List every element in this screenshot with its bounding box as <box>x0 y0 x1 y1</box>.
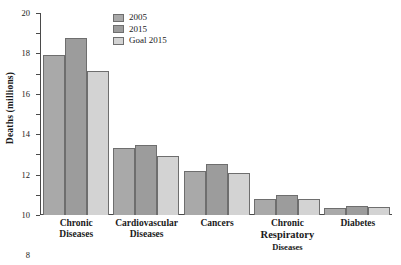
y-axis-tick-label: 16 <box>22 90 31 99</box>
legend-item[interactable]: 2005 <box>113 13 167 22</box>
y-axis-title: Deaths (millions) <box>2 0 18 215</box>
x-axis-category-label-line: Diseases <box>252 242 322 252</box>
legend-item-label: 2015 <box>129 25 147 34</box>
legend-item-label: Goal 2015 <box>129 36 167 45</box>
bar-group <box>41 13 111 215</box>
y-axis-tick-label: 18 <box>22 49 31 58</box>
y-axis-tick: 12 <box>36 94 40 95</box>
bar-group <box>181 13 251 215</box>
x-axis-category-label: ChronicDiseases <box>41 218 111 252</box>
legend-item[interactable]: Goal 2015 <box>113 36 167 45</box>
bar[interactable] <box>184 171 206 215</box>
bar[interactable] <box>298 199 320 215</box>
bar[interactable] <box>368 207 390 215</box>
x-axis-category-label-line: Diabetes <box>323 218 393 229</box>
x-axis-category-labels: ChronicDiseasesCardiovascularDiseasesCan… <box>41 218 393 252</box>
y-axis-tick: 6 <box>36 154 40 155</box>
bar[interactable] <box>206 164 228 215</box>
bar[interactable] <box>113 148 135 215</box>
bar-group <box>252 13 322 215</box>
bar[interactable] <box>254 199 276 215</box>
legend-item-label: 2005 <box>129 13 147 22</box>
legend-item[interactable]: 2015 <box>113 25 167 34</box>
x-axis-category-label-line: Chronic <box>252 218 322 229</box>
x-axis-category-label-line: Diseases <box>41 229 111 240</box>
x-axis-category-label: CardiovascularDiseases <box>111 218 181 252</box>
x-axis-category-label-line: Cardiovascular <box>111 218 181 229</box>
bar-group-bars <box>322 13 392 215</box>
y-axis-tick: 18 <box>36 33 40 34</box>
y-axis-tick: 0 <box>36 215 40 216</box>
bar[interactable] <box>43 55 65 215</box>
y-axis-tick: 14 <box>36 74 40 75</box>
bar-group-bars <box>181 13 251 215</box>
bar[interactable] <box>135 145 157 215</box>
legend-swatch-icon <box>113 37 124 45</box>
y-axis-tick-label: 8 <box>26 251 30 260</box>
bar-group-bars <box>252 13 322 215</box>
legend-swatch-icon <box>113 14 124 22</box>
x-axis-category-label: Cancers <box>182 218 252 252</box>
y-axis-tick: 16 <box>36 53 40 54</box>
bar-groups <box>41 13 392 215</box>
x-axis-category-label-line: Diseases <box>111 229 181 240</box>
bar-chart: Deaths (millions) 02468101214161820 Chro… <box>0 0 401 265</box>
bar[interactable] <box>228 173 250 215</box>
x-axis-category-label: Diabetes <box>323 218 393 252</box>
legend-swatch-icon <box>113 25 124 33</box>
x-axis-category-label-line: Cancers <box>182 218 252 229</box>
y-axis-tick-label: 12 <box>22 170 31 179</box>
y-axis-tick-label: 10 <box>22 211 31 220</box>
bar[interactable] <box>276 195 298 215</box>
bar[interactable] <box>346 206 368 215</box>
y-axis-title-text: Deaths (millions) <box>5 71 15 143</box>
y-axis-tick: 4 <box>36 175 40 176</box>
bar[interactable] <box>65 38 87 215</box>
bar[interactable] <box>157 156 179 215</box>
x-axis-category-label: ChronicRespiratoryDiseases <box>252 218 322 252</box>
y-axis-tick: 20 <box>36 13 40 14</box>
y-axis-tick-label: 14 <box>22 130 31 139</box>
y-axis-tick: 10 <box>36 114 40 115</box>
legend: 20052015Goal 2015 <box>113 13 167 45</box>
bar-group-bars <box>41 13 111 215</box>
bar[interactable] <box>87 71 109 215</box>
y-axis-tick-label: 20 <box>22 9 31 18</box>
x-axis-category-label-line: Chronic <box>41 218 111 229</box>
y-axis-tick: 8 <box>36 134 40 135</box>
y-axis-tick: 2 <box>36 195 40 196</box>
plot-area: 02468101214161820 <box>40 13 392 215</box>
bar-group <box>322 13 392 215</box>
bar[interactable] <box>324 208 346 215</box>
x-axis-category-label-line: Respiratory <box>252 229 322 241</box>
